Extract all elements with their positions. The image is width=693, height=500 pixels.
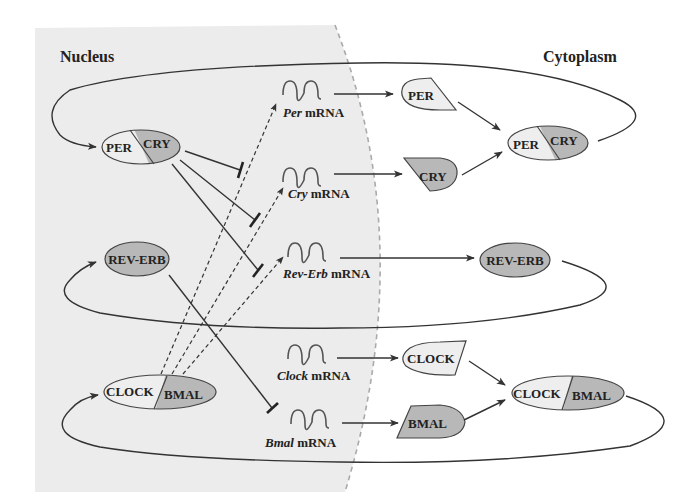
clock-label: CLOCK [513,386,562,401]
nucleus-label: Nucleus [60,48,114,65]
cytoplasm-clock-bmal-complex: CLOCK BMAL [512,370,640,415]
cytoplasm-per: PER [402,78,456,110]
per-label: PER [513,137,540,152]
cry-label: CRY [550,133,578,148]
cry-protein-label: CRY [419,169,447,184]
svg-text:Per mRNA: Per mRNA [283,105,345,120]
bmal-label: BMAL [572,388,611,403]
bmal-protein-label: BMAL [408,416,447,431]
svg-text:Cry mRNA: Cry mRNA [288,186,350,201]
rev-erb-label: REV-ERB [108,252,166,267]
clock-protein-label: CLOCK [407,351,456,366]
nucleus-rev-erb: REV-ERB [105,242,169,276]
bmal-label: BMAL [164,387,203,402]
per-label: PER [106,140,133,155]
per-protein-label: PER [408,88,435,103]
cytoplasm-cry: CRY [404,158,457,191]
cytoplasm-per-cry-complex: PER CRY [508,120,600,170]
circadian-clock-diagram: Nucleus Cytoplasm PER CRY REV-ERB CLOCK … [0,0,693,500]
cytoplasm-bmal: BMAL [397,405,465,438]
cry-label: CRY [143,136,171,151]
svg-text:Bmal mRNA: Bmal mRNA [264,435,337,450]
assoc-per [458,102,500,130]
nucleus-region [35,25,380,492]
svg-text:Clock mRNA: Clock mRNA [277,368,351,383]
assoc-bmal [464,400,505,420]
svg-text:Rev-Erb mRNA: Rev-Erb mRNA [282,266,371,281]
cytoplasm-clock: CLOCK [403,341,466,375]
assoc-clock [469,361,505,385]
rev-erb-protein-label: REV-ERB [486,253,544,268]
cytoplasm-rev-erb: REV-ERB [480,243,550,277]
cytoplasm-label: Cytoplasm [543,48,617,66]
clock-label: CLOCK [106,384,155,399]
assoc-cry [462,152,502,175]
